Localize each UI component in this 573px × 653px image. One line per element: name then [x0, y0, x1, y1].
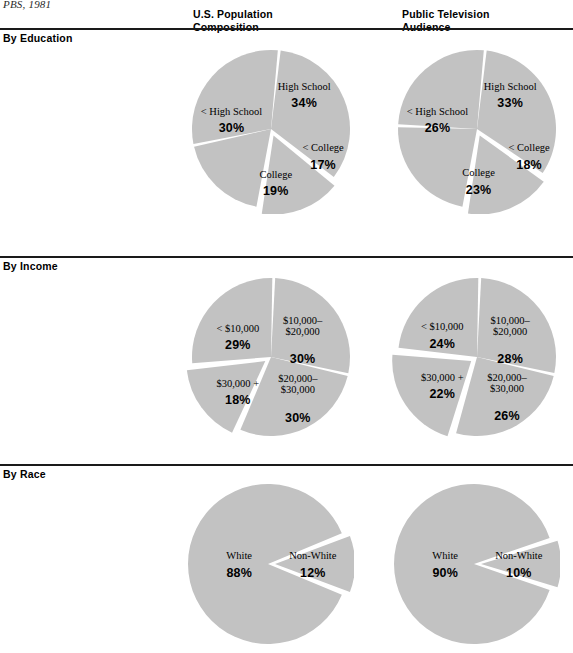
- pie-slice-label: $10,000–: [490, 315, 530, 326]
- section-title-education: By Education: [3, 32, 73, 44]
- pie-svg: Non-White12%White88%: [182, 478, 354, 650]
- pie-slice-value: 90%: [432, 566, 458, 580]
- pie-slice-label: $30,000: [490, 383, 524, 394]
- pie-slice-value: 30%: [290, 352, 316, 366]
- pie-slice-value: 18%: [225, 393, 251, 407]
- pie-chart-page: PBS, 1981 U.S. Population Composition Pu…: [0, 0, 573, 653]
- section-title-race: By Race: [3, 468, 46, 480]
- pie-slice-label: $20,000: [286, 326, 320, 337]
- pie-svg: $10,000–$20,00028%$20,000–$30,00026%$30,…: [392, 272, 562, 442]
- pie-slice-label: < High School: [201, 106, 262, 117]
- pie-slice-label: < $10,000: [216, 323, 259, 334]
- pie-slice-value: 29%: [225, 338, 251, 352]
- pie-svg: High School34%< College17%College19%< Hi…: [186, 44, 356, 214]
- pie-slice-value: 12%: [300, 566, 326, 580]
- section-divider-income: [0, 256, 573, 258]
- pie-svg: $10,000–$20,00030%$20,000–$30,00030%$30,…: [186, 272, 356, 442]
- pie-slice-label: $20,000–: [487, 372, 527, 383]
- pie-slice-value: 26%: [425, 121, 451, 135]
- pie-slice-label: White: [432, 550, 458, 561]
- pie-slice-value: 26%: [494, 409, 520, 423]
- pie-chart-race-public-tv: Non-White10%White90%: [388, 478, 560, 650]
- pie-slice: [398, 50, 484, 129]
- pie-slice-label: < College: [509, 142, 551, 153]
- pie-slice-label: < High School: [407, 106, 468, 117]
- pie-slice-label: < $10,000: [421, 321, 464, 332]
- pie-slice-label: $30,000 +: [421, 372, 464, 383]
- pie-slice-label: Non-White: [495, 550, 543, 561]
- source-note: PBS, 1981: [3, 0, 51, 10]
- pie-slice-value: 17%: [310, 158, 336, 172]
- pie-slice-value: 10%: [506, 566, 532, 580]
- pie-slice-label: < College: [303, 142, 345, 153]
- pie-svg: High School33%< College18%College23%< Hi…: [392, 44, 562, 214]
- pie-slice-value: 19%: [263, 184, 289, 198]
- section-divider-race: [0, 464, 573, 466]
- pie-slice-label: $20,000: [493, 326, 527, 337]
- pie-slice-label: High School: [278, 81, 331, 92]
- pie-slice-label: High School: [484, 81, 537, 92]
- pie-chart-education-us-population: High School34%< College17%College19%< Hi…: [186, 44, 356, 214]
- pie-chart-education-public-tv: High School33%< College18%College23%< Hi…: [392, 44, 562, 214]
- pie-slice-label: $10,000–: [283, 315, 323, 326]
- pie-svg: Non-White10%White90%: [388, 478, 560, 650]
- pie-slice-label: College: [259, 169, 292, 180]
- pie-slice-value: 23%: [466, 183, 492, 197]
- pie-slice-label: $30,000 +: [216, 378, 259, 389]
- pie-slice-value: 88%: [226, 566, 252, 580]
- pie-slice-value: 33%: [497, 96, 523, 110]
- pie-slice-value: 30%: [285, 411, 311, 425]
- section-title-income: By Income: [3, 260, 58, 272]
- pie-slice-label: $20,000–: [278, 373, 318, 384]
- pie-slice-value: 18%: [516, 158, 542, 172]
- pie-slice-label: White: [226, 550, 252, 561]
- pie-slice-value: 24%: [429, 337, 455, 351]
- pie-slice-value: 22%: [429, 387, 455, 401]
- pie-slice-value: 34%: [291, 96, 317, 110]
- pie-slice-label: Non-White: [289, 550, 337, 561]
- pie-slice-label: College: [462, 167, 495, 178]
- section-divider-education: [0, 28, 573, 30]
- pie-chart-race-us-population: Non-White12%White88%: [182, 478, 354, 650]
- pie-slice-value: 28%: [497, 352, 523, 366]
- pie-slice-label: $30,000: [281, 384, 315, 395]
- pie-chart-income-public-tv: $10,000–$20,00028%$20,000–$30,00026%$30,…: [392, 272, 562, 442]
- pie-slice-value: 30%: [219, 121, 245, 135]
- pie-chart-income-us-population: $10,000–$20,00030%$20,000–$30,00030%$30,…: [186, 272, 356, 442]
